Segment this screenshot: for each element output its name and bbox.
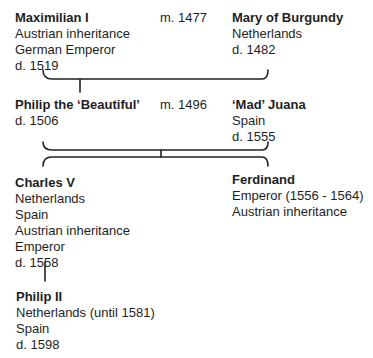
person-detail: Netherlands	[15, 191, 130, 207]
person-detail: d. 1519	[15, 58, 130, 74]
person-charles-v: Charles V Netherlands Spain Austrian inh…	[15, 175, 130, 271]
person-detail: Spain	[16, 321, 155, 337]
person-detail: Spain	[232, 113, 306, 129]
person-name: Philip II	[16, 289, 155, 305]
person-detail: Austrian inheritance	[232, 204, 364, 220]
person-philip-the-beautiful: Philip the ‘Beautiful’ d. 1506	[15, 97, 140, 129]
person-mad-juana: ‘Mad’ Juana Spain d. 1555	[232, 97, 306, 145]
person-detail: d. 1482	[232, 42, 343, 58]
person-detail: Netherlands (until 1581)	[16, 305, 155, 321]
marriage-date-2: m. 1496	[160, 97, 207, 113]
person-name: ‘Mad’ Juana	[232, 97, 306, 113]
person-ferdinand: Ferdinand Emperor (1556 - 1564) Austrian…	[232, 172, 364, 220]
person-name: Ferdinand	[232, 172, 364, 188]
person-detail: Austrian inheritance	[15, 223, 130, 239]
person-detail: d. 1506	[15, 113, 140, 129]
person-detail: German Emperor	[15, 42, 130, 58]
person-detail: Spain	[15, 207, 130, 223]
person-detail: Netherlands	[232, 26, 343, 42]
person-name: Philip the ‘Beautiful’	[15, 97, 140, 113]
person-detail: d. 1598	[16, 337, 155, 353]
person-name: Mary of Burgundy	[232, 10, 343, 26]
person-name: Maximilian I	[15, 10, 130, 26]
marriage-date-1: m. 1477	[160, 10, 207, 26]
person-maximilian-i: Maximilian I Austrian inheritance German…	[15, 10, 130, 74]
person-detail: Emperor (1556 - 1564)	[232, 188, 364, 204]
person-detail: Austrian inheritance	[15, 26, 130, 42]
person-detail: d. 1555	[232, 129, 306, 145]
person-name: Charles V	[15, 175, 130, 191]
person-detail: d. 1558	[15, 255, 130, 271]
children-bracket	[43, 157, 268, 166]
person-philip-ii: Philip II Netherlands (until 1581) Spain…	[16, 289, 155, 353]
person-mary-of-burgundy: Mary of Burgundy Netherlands d. 1482	[232, 10, 343, 58]
person-detail: Emperor	[15, 239, 130, 255]
